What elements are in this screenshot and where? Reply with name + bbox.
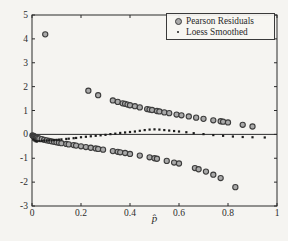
pearson-residual-point (201, 116, 206, 121)
loess-smoothed-point (222, 135, 224, 137)
y-tick-label: -1 (20, 153, 28, 163)
loess-smoothed-point (51, 139, 53, 141)
pearson-residual-point (123, 150, 128, 155)
loess-smoothed-point (80, 136, 82, 138)
loess-smoothed-point (68, 138, 70, 140)
loess-smoothed-point (251, 136, 253, 138)
loess-smoothed-point (119, 132, 121, 134)
pearson-residual-point (179, 113, 184, 118)
loess-smoothed-point (144, 129, 146, 131)
loess-smoothed-point (38, 140, 40, 142)
legend-item-pearson-residuals: Pearson Residuals (170, 16, 271, 26)
pearson-residual-point (137, 105, 142, 110)
loess-smoothed-point (75, 137, 77, 139)
pearson-residual-point (221, 119, 226, 124)
loess-smoothed-point (60, 138, 62, 140)
pearson-residual-point (164, 158, 169, 163)
loess-smoothed-point (178, 130, 180, 132)
loess-smoothed-point (158, 129, 160, 131)
loess-smoothed-point (264, 136, 266, 138)
pearson-residual-point (250, 124, 255, 129)
loess-smoothed-point (212, 134, 214, 136)
loess-smoothed-point (90, 135, 92, 137)
y-tick-label: 3 (23, 58, 28, 68)
pearson-residual-point (240, 122, 245, 127)
loess-smoothed-point (41, 140, 43, 142)
loess-smoothed-point (46, 139, 48, 141)
legend-label-loess: Loess Smoothed (186, 27, 248, 37)
loess-smoothed-point (173, 130, 175, 132)
y-tick-label: 5 (23, 10, 28, 20)
loess-smoothed-point (65, 138, 67, 140)
x-axis-label: p̂ (32, 212, 277, 224)
legend-marker-cell (170, 18, 186, 25)
legend-label-pearson: Pearson Residuals (186, 16, 254, 26)
y-tick-label: -2 (20, 177, 28, 187)
loess-smoothed-point (124, 131, 126, 133)
loess-smoothed-point (43, 139, 45, 141)
pearson-residual-point (66, 142, 71, 147)
pearson-residual-point (174, 112, 179, 117)
y-tick-label: -3 (20, 201, 28, 211)
legend-marker-cell (170, 31, 186, 34)
pearson-residual-point (233, 185, 238, 190)
pearson-residual-point (78, 144, 83, 149)
loess-smoothed-point (73, 137, 75, 139)
pearson-residual-point (211, 118, 216, 123)
loess-smoothed-point (114, 133, 116, 135)
loess-smoothed-point (53, 139, 55, 141)
loess-smoothed-point (95, 135, 97, 137)
axis-tick-labels: 00.20.40.60.81-3-2-1012345 (20, 10, 280, 218)
loess-smoothed-point (36, 140, 38, 142)
pearson-circle-marker-icon (175, 18, 182, 25)
pearson-residual-point (83, 144, 88, 149)
pearson-residual-point (127, 151, 132, 156)
loess-smoothed-point (168, 129, 170, 131)
figure-container: 00.20.40.60.81-3-2-1012345 Pearson Resid… (0, 0, 288, 241)
pearson-residual-point (149, 107, 154, 112)
loess-smoothed-point (242, 136, 244, 138)
pearson-residual-point (110, 148, 115, 153)
pearson-residuals-points (30, 32, 255, 190)
loess-smoothed-point (134, 130, 136, 132)
pearson-residual-point (162, 110, 167, 115)
pearson-residual-point (225, 120, 230, 125)
loess-smoothed-point (100, 134, 102, 136)
loess-smoothed-points (32, 128, 266, 142)
pearson-residual-point (96, 146, 101, 151)
loess-smoothed-point (193, 132, 195, 134)
pearson-residual-point (127, 103, 132, 108)
loess-smoothed-point (163, 129, 165, 131)
pearson-residual-point (88, 145, 93, 150)
loess-smoothed-point (129, 131, 131, 133)
loess-smoothed-point (85, 136, 87, 138)
pearson-residual-point (203, 169, 208, 174)
loess-smoothed-point (58, 139, 60, 141)
pearson-residual-point (194, 115, 199, 120)
y-tick-label: 4 (23, 34, 28, 44)
y-tick-label: 0 (23, 129, 28, 139)
loess-smoothed-point (153, 128, 155, 130)
pearson-residual-point (43, 32, 48, 37)
pearson-residual-point (157, 109, 162, 114)
pearson-residual-point (196, 167, 201, 172)
legend-item-loess-smoothed: Loess Smoothed (170, 27, 271, 37)
loess-smoothed-point (109, 133, 111, 135)
pearson-residual-point (86, 88, 91, 93)
loess-smoothed-point (139, 130, 141, 132)
loess-smoothed-point (149, 129, 151, 131)
legend: Pearson Residuals Loess Smoothed (166, 13, 275, 40)
pearson-residual-point (172, 160, 177, 165)
loess-smoothed-point (48, 139, 50, 141)
pearson-residual-point (118, 150, 123, 155)
pearson-residual-point (154, 156, 159, 161)
pearson-residual-point (59, 141, 64, 146)
loess-dot-marker-icon (177, 31, 180, 34)
loess-smoothed-point (232, 135, 234, 137)
pearson-residual-point (137, 153, 142, 158)
pearson-residual-point (74, 143, 79, 148)
pearson-residual-point (176, 161, 181, 166)
pearson-residual-point (211, 172, 216, 177)
y-tick-label: 2 (23, 82, 28, 92)
pearson-residual-point (218, 175, 223, 180)
